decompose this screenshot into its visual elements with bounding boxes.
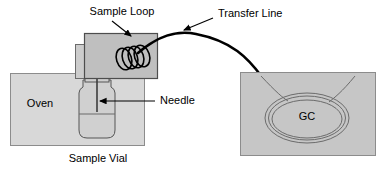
- transfer-line-leader-line: [184, 18, 213, 30]
- sample-vial-label: Sample Vial: [69, 152, 128, 164]
- valve-block: [85, 34, 158, 79]
- oven-label: Oven: [27, 97, 53, 109]
- headspace-gc-diagram: Sample Loop Transfer Line Needle Oven Sa…: [0, 0, 379, 173]
- transfer-line-callout: Transfer Line: [184, 7, 282, 30]
- needle-label: Needle: [160, 94, 195, 106]
- sample-loop-callout: Sample Loop: [90, 5, 155, 36]
- gc-label: GC: [299, 110, 316, 122]
- transfer-line-label: Transfer Line: [218, 7, 282, 19]
- sample-loop-label: Sample Loop: [90, 5, 155, 17]
- oven-box: [11, 74, 145, 146]
- diagram-canvas: Sample Loop Transfer Line Needle Oven Sa…: [0, 0, 379, 173]
